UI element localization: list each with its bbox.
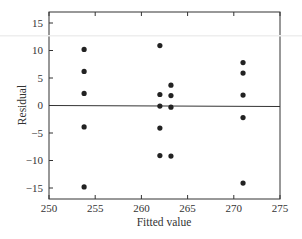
y-tick-label: −10 [26, 154, 44, 166]
data-point [82, 124, 87, 129]
y-tick-label: −5 [31, 127, 43, 139]
data-point [82, 69, 87, 74]
x-tick-label: 255 [87, 202, 104, 214]
y-axis-label: Residual [16, 85, 28, 125]
data-point [240, 115, 245, 120]
x-tick-label: 250 [41, 202, 58, 214]
data-point [82, 91, 87, 96]
data-point [240, 60, 245, 65]
residual-scatter-plot: 151050−5−10−15 250255260265270275 Fitted… [0, 0, 302, 239]
y-tick-label: 0 [38, 99, 44, 111]
data-point [82, 47, 87, 52]
x-tick-label: 265 [179, 202, 196, 214]
x-tick-label: 275 [272, 202, 289, 214]
data-point [82, 184, 87, 189]
y-tick-label: −15 [26, 182, 44, 194]
data-point [157, 43, 162, 48]
data-point [240, 70, 245, 75]
x-tick-label: 270 [226, 202, 243, 214]
data-point [168, 154, 173, 159]
data-point [157, 92, 162, 97]
data-point [168, 93, 173, 98]
data-points [82, 43, 246, 190]
x-axis-ticks: 250255260265270275 [41, 12, 289, 214]
data-point [157, 103, 162, 108]
data-point [240, 92, 245, 97]
data-point [157, 125, 162, 130]
data-point [168, 83, 173, 88]
x-tick-label: 260 [133, 202, 150, 214]
y-tick-label: 5 [38, 72, 44, 84]
data-point [240, 180, 245, 185]
data-point [157, 153, 162, 158]
data-point [168, 105, 173, 110]
y-tick-label: 15 [32, 17, 44, 29]
x-axis-label: Fitted value [137, 216, 192, 228]
y-tick-label: 10 [32, 44, 44, 56]
zero-reference-line [49, 106, 280, 107]
